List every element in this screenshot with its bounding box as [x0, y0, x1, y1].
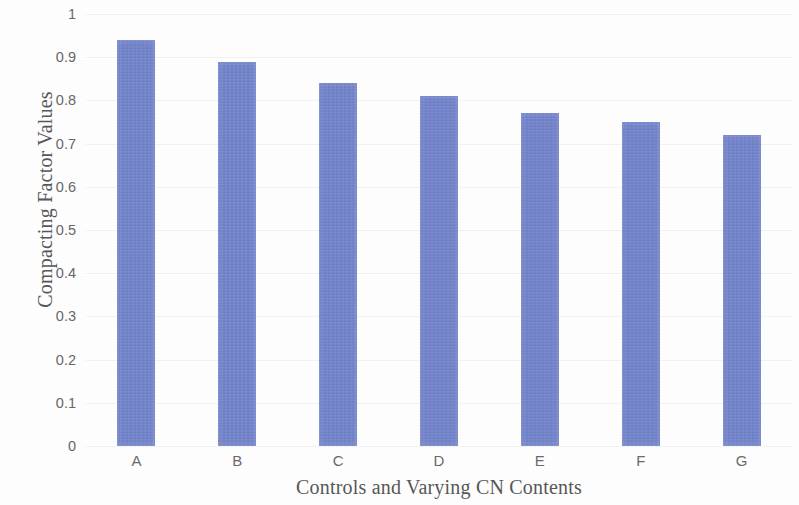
bar-series: [86, 14, 792, 446]
y-axis-tick-label: 0: [20, 438, 76, 454]
bar: [218, 62, 256, 446]
x-axis-tick-label: F: [590, 452, 691, 469]
y-axis-tick-label: 0.2: [20, 352, 76, 368]
gridline: [86, 446, 792, 447]
bar: [319, 83, 357, 446]
x-axis-tick-label: E: [489, 452, 590, 469]
y-axis-tick-label: 0.7: [20, 136, 76, 152]
y-axis-tick-label: 0.5: [20, 222, 76, 238]
x-axis-tick-label: D: [389, 452, 490, 469]
bar: [420, 96, 458, 446]
plot-area: [86, 14, 792, 446]
x-axis-tick-label: B: [187, 452, 288, 469]
bar-slot: [187, 14, 288, 446]
bar-chart-figure: Compacting Factor Values 10.90.80.70.60.…: [0, 0, 799, 505]
bar-slot: [389, 14, 490, 446]
x-axis-title: Controls and Varying CN Contents: [86, 476, 792, 499]
bar-slot: [86, 14, 187, 446]
y-axis-tick-label: 1: [20, 6, 76, 22]
bar: [723, 135, 761, 446]
y-axis-tick-label-group: 10.90.80.70.60.50.40.30.20.10: [20, 0, 76, 505]
bar-slot: [691, 14, 792, 446]
y-axis-tick-label: 0.1: [20, 395, 76, 411]
y-axis-tick-label: 0.3: [20, 308, 76, 324]
bar: [622, 122, 660, 446]
y-axis-tick-label: 0.8: [20, 92, 76, 108]
x-axis-tick-label: C: [288, 452, 389, 469]
bar: [521, 113, 559, 446]
bar: [117, 40, 155, 446]
bar-slot: [489, 14, 590, 446]
y-axis-tick-label: 0.6: [20, 179, 76, 195]
x-axis-tick-label: G: [691, 452, 792, 469]
y-axis-tick-label: 0.9: [20, 49, 76, 65]
bar-slot: [288, 14, 389, 446]
x-axis-tick-label: A: [86, 452, 187, 469]
bar-slot: [590, 14, 691, 446]
x-axis-tick-label-group: ABCDEFG: [86, 452, 792, 469]
y-axis-tick-label: 0.4: [20, 265, 76, 281]
